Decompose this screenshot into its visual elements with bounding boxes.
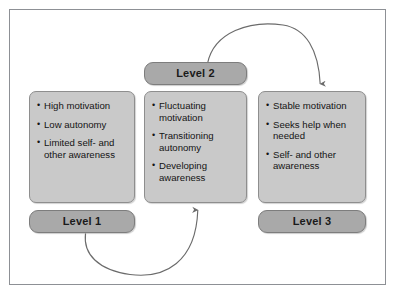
list-item: Self- and other awareness — [266, 149, 358, 172]
label-level3-text: Level 3 — [293, 216, 332, 227]
list-item: Stable motivation — [266, 100, 358, 112]
label-box-level1: Level 1 — [29, 210, 135, 233]
list-item: High motivation — [37, 100, 127, 112]
list-item: Low autonomy — [37, 119, 127, 131]
bullet-list-level2: Fluctuating motivation Transitioning aut… — [145, 92, 246, 183]
list-item: Developing awareness — [152, 160, 239, 183]
label-box-level2: Level 2 — [144, 62, 247, 85]
list-item: Fluctuating motivation — [152, 100, 239, 123]
list-item: Transitioning autonomy — [152, 130, 239, 153]
content-box-level2: Fluctuating motivation Transitioning aut… — [144, 91, 247, 203]
list-item: Limited self- and other awareness — [37, 137, 127, 160]
content-box-level3: Stable motivation Seeks help when needed… — [258, 91, 366, 203]
bullet-list-level3: Stable motivation Seeks help when needed… — [259, 92, 365, 172]
label-box-level3: Level 3 — [258, 210, 366, 233]
label-level1-text: Level 1 — [63, 216, 102, 227]
bullet-list-level1: High motivation Low autonomy Limited sel… — [30, 92, 134, 160]
diagram-canvas: High motivation Low autonomy Limited sel… — [0, 0, 397, 294]
list-item: Seeks help when needed — [266, 119, 358, 142]
content-box-level1: High motivation Low autonomy Limited sel… — [29, 91, 135, 203]
label-level2-text: Level 2 — [176, 68, 215, 79]
